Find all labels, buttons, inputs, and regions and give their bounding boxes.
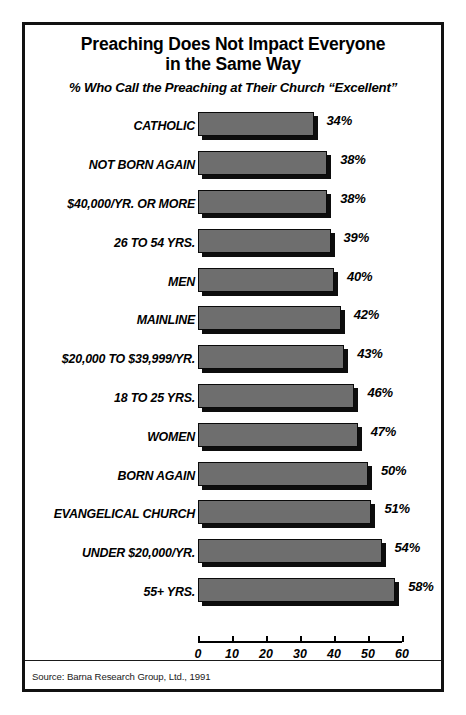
bar bbox=[198, 112, 314, 136]
bar bbox=[198, 345, 344, 369]
x-axis-tick bbox=[402, 636, 404, 642]
bar-container: 43% bbox=[198, 345, 441, 373]
bar-value-label: 34% bbox=[327, 113, 352, 128]
category-label: $20,000 TO $39,999/YR. bbox=[62, 352, 195, 366]
bar-row: MAINLINE42% bbox=[25, 301, 441, 340]
bar-row: 55+ YRS.58% bbox=[25, 573, 441, 612]
bar-value-label: 54% bbox=[395, 540, 420, 555]
x-axis-tick bbox=[300, 636, 302, 642]
bar bbox=[198, 578, 395, 602]
x-axis-tick bbox=[334, 636, 336, 642]
bar-row: NOT BORN AGAIN38% bbox=[25, 146, 441, 185]
bar-container: 38% bbox=[198, 190, 441, 218]
bar-row: CATHOLIC34% bbox=[25, 107, 441, 146]
bar bbox=[198, 500, 371, 524]
category-label: EVANGELICAL CHURCH bbox=[54, 507, 195, 521]
category-label: BORN AGAIN bbox=[118, 469, 195, 483]
bar bbox=[198, 190, 327, 214]
bar-row: $40,000/YR. OR MORE38% bbox=[25, 185, 441, 224]
bar-value-label: 40% bbox=[347, 269, 372, 284]
bar bbox=[198, 539, 382, 563]
bar-container: 58% bbox=[198, 578, 441, 606]
bar bbox=[198, 151, 327, 175]
bar-value-label: 46% bbox=[367, 385, 392, 400]
bar-value-label: 38% bbox=[340, 152, 365, 167]
category-label: UNDER $20,000/YR. bbox=[82, 546, 195, 560]
bar bbox=[198, 384, 354, 408]
x-axis: 0102030405060 bbox=[198, 641, 402, 675]
bar bbox=[198, 306, 341, 330]
category-label: CATHOLIC bbox=[134, 119, 196, 133]
bar-container: 54% bbox=[198, 539, 441, 567]
bar-row: $20,000 TO $39,999/YR.43% bbox=[25, 340, 441, 379]
category-label: 26 TO 54 YRS. bbox=[114, 236, 195, 250]
bar-row: UNDER $20,000/YR.54% bbox=[25, 534, 441, 573]
bar bbox=[198, 229, 331, 253]
x-axis-tick bbox=[368, 636, 370, 642]
bar bbox=[198, 462, 368, 486]
source-note: Source: Barna Research Group, Ltd., 1991 bbox=[32, 671, 210, 682]
bar bbox=[198, 268, 334, 292]
chart-title-block: Preaching Does Not Impact Everyone in th… bbox=[25, 25, 441, 95]
chart-title-line-1: Preaching Does Not Impact Everyone bbox=[25, 34, 441, 54]
bar bbox=[198, 423, 358, 447]
bar-value-label: 51% bbox=[384, 501, 409, 516]
chart-figure: Preaching Does Not Impact Everyone in th… bbox=[22, 22, 444, 692]
category-label: 18 TO 25 YRS. bbox=[114, 391, 195, 405]
plot-area: CATHOLIC34%NOT BORN AGAIN38%$40,000/YR. … bbox=[25, 107, 441, 637]
bar-row: MEN40% bbox=[25, 262, 441, 301]
bar-value-label: 58% bbox=[408, 579, 433, 594]
bar-container: 47% bbox=[198, 423, 441, 451]
bar-value-label: 42% bbox=[354, 307, 379, 322]
bar-container: 39% bbox=[198, 229, 441, 257]
bar-value-label: 47% bbox=[371, 424, 396, 439]
bar-value-label: 38% bbox=[340, 191, 365, 206]
bar-row: EVANGELICAL CHURCH51% bbox=[25, 495, 441, 534]
bar-container: 38% bbox=[198, 151, 441, 179]
bar-value-label: 50% bbox=[381, 463, 406, 478]
bar-row: BORN AGAIN50% bbox=[25, 456, 441, 495]
bar-value-label: 43% bbox=[357, 346, 382, 361]
category-label: MEN bbox=[168, 275, 195, 289]
bar-container: 50% bbox=[198, 462, 441, 490]
chart-title-line-2: in the Same Way bbox=[25, 54, 441, 74]
footer-divider bbox=[25, 660, 441, 662]
bar-value-label: 39% bbox=[344, 230, 369, 245]
bar-row: 18 TO 25 YRS.46% bbox=[25, 379, 441, 418]
bar-container: 51% bbox=[198, 500, 441, 528]
bar-container: 46% bbox=[198, 384, 441, 412]
x-axis-tick bbox=[198, 636, 200, 642]
bar-container: 42% bbox=[198, 306, 441, 334]
category-label: MAINLINE bbox=[137, 313, 195, 327]
category-label: WOMEN bbox=[147, 430, 195, 444]
category-label: $40,000/YR. OR MORE bbox=[67, 197, 195, 211]
bar-row: WOMEN47% bbox=[25, 417, 441, 456]
bar-row: 26 TO 54 YRS.39% bbox=[25, 223, 441, 262]
x-axis-tick bbox=[266, 636, 268, 642]
bar-container: 40% bbox=[198, 268, 441, 296]
category-label: NOT BORN AGAIN bbox=[89, 158, 195, 172]
chart-subtitle: % Who Call the Preaching at Their Church… bbox=[25, 80, 441, 95]
bar-container: 34% bbox=[198, 112, 441, 140]
x-axis-tick bbox=[232, 636, 234, 642]
category-label: 55+ YRS. bbox=[143, 585, 195, 599]
